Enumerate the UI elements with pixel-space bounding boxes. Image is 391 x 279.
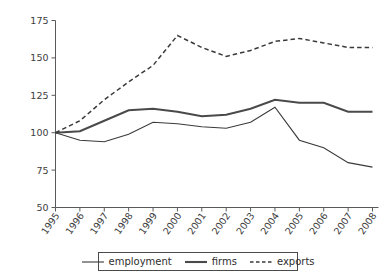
legend-label: employment — [109, 256, 172, 267]
line-swatch-icon — [82, 258, 104, 266]
x-tick-label: 1999 — [136, 210, 159, 236]
data-series-group — [56, 35, 373, 167]
line-swatch-icon — [185, 258, 207, 266]
y-tick-label: 50 — [36, 202, 48, 213]
x-tick-label: 2005 — [283, 210, 306, 236]
y-tick-label: 75 — [36, 165, 48, 176]
legend-label: firms — [212, 256, 237, 267]
series-line-exports — [56, 35, 373, 132]
x-tick-label: 2006 — [307, 210, 330, 236]
x-tick-label: 2002 — [209, 210, 232, 236]
y-tick-label: 150 — [30, 52, 48, 63]
legend-item-firms[interactable]: firms — [185, 256, 237, 267]
y-axis-tick-labels: 5075100125150175 — [30, 15, 48, 213]
legend-item-employment[interactable]: employment — [82, 256, 172, 267]
legend-item-exports[interactable]: exports — [250, 256, 315, 267]
x-axis-tick-labels: 1995199619971998199920002001200220032004… — [39, 210, 379, 236]
x-tick-label: 2007 — [331, 210, 354, 236]
x-tick-label: 2003 — [234, 210, 257, 236]
y-tick-label: 125 — [30, 90, 48, 101]
x-tick-label: 1996 — [63, 210, 86, 236]
dashed-line-swatch-icon — [250, 258, 272, 266]
y-tick-label: 175 — [30, 15, 48, 26]
x-tick-label: 1995 — [39, 210, 62, 236]
x-tick-label: 2000 — [161, 210, 184, 236]
line-chart-plot: 1995199619971998199920002001200220032004… — [0, 0, 391, 279]
x-tick-label: 1997 — [88, 210, 111, 236]
chart-legend: employmentfirmsexports — [98, 252, 298, 271]
y-tick-label: 100 — [30, 127, 48, 138]
x-tick-label: 2001 — [185, 210, 208, 236]
x-tick-label: 2008 — [356, 210, 379, 236]
x-tick-label: 1998 — [112, 210, 135, 236]
legend-label: exports — [277, 256, 315, 267]
x-tick-label: 2004 — [258, 210, 281, 236]
chart-figure: 1995199619971998199920002001200220032004… — [0, 0, 391, 279]
